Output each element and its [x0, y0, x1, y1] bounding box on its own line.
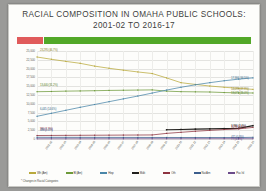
- series-marker: [94, 138, 95, 139]
- x-axis-tick-label: 2012-13: [203, 140, 212, 150]
- data-point-label: 480 (1.0%): [40, 128, 53, 132]
- legend-item-label: Multi: [140, 171, 145, 175]
- legend-item[interactable]: Oth: [163, 171, 175, 175]
- plot-area: 2001-022002-032003-042004-052005-062006-…: [37, 51, 253, 139]
- y-axis-tick-label: 0: [33, 137, 35, 141]
- x-axis-tick-label: 2007-08: [131, 140, 140, 150]
- legend-swatch-icon: [29, 172, 36, 174]
- y-axis-tick-label: 17,500: [26, 75, 35, 79]
- series-line: [37, 57, 253, 89]
- data-point-label: 13,440 (31.2%): [40, 83, 58, 87]
- series-marker: [80, 107, 81, 108]
- legend-item[interactable]: Nat Am: [194, 171, 211, 175]
- series-marker: [180, 138, 181, 139]
- series-marker: [180, 87, 181, 88]
- series-marker: [80, 137, 81, 138]
- banner-accent-red: [17, 37, 43, 44]
- series-marker: [195, 91, 196, 92]
- series-marker: [152, 137, 153, 138]
- legend-swatch-icon: [66, 172, 73, 174]
- series-marker: [123, 98, 124, 99]
- legend-item[interactable]: Bl (Am): [66, 171, 83, 175]
- series-marker: [108, 68, 109, 69]
- series-marker: [224, 129, 225, 130]
- legend-item[interactable]: Multi: [132, 171, 145, 175]
- series-marker: [51, 135, 52, 136]
- data-point-label: 77 (0.1%): [231, 137, 242, 141]
- series-marker: [252, 125, 254, 127]
- legend-item-label: Nat Am: [202, 171, 211, 175]
- legend-item[interactable]: Hisp: [100, 171, 113, 175]
- series-marker: [252, 92, 253, 93]
- series-marker: [137, 95, 138, 96]
- series-marker: [166, 91, 167, 92]
- x-axis-tick-label: 2013-14: [217, 140, 226, 150]
- series-marker: [51, 138, 52, 139]
- series-marker: [80, 135, 81, 136]
- series-marker: [51, 113, 52, 114]
- legend-swatch-icon: [228, 172, 235, 174]
- page-title: RACIAL COMPOSITION IN OMAHA PUBLIC SCHOO…: [9, 10, 259, 31]
- legend-item[interactable]: Pac Isl: [228, 171, 244, 175]
- x-axis-tick-label: 2002-03: [59, 140, 68, 150]
- x-axis-tick-label: 2006-07: [116, 140, 125, 150]
- legend-item[interactable]: Wh (Am): [29, 171, 47, 175]
- series-marker: [180, 132, 181, 133]
- series-marker: [65, 138, 66, 139]
- series-marker: [166, 129, 168, 131]
- x-axis-tick-label: 2004-05: [87, 140, 96, 150]
- x-axis-tick-label: 2009-10: [159, 140, 168, 150]
- series-marker: [36, 135, 37, 136]
- y-axis-tick-label: 5,000: [28, 119, 35, 123]
- series-marker: [252, 138, 253, 139]
- series-marker: [180, 82, 181, 83]
- legend-swatch-icon: [132, 172, 139, 174]
- series-marker: [252, 127, 253, 128]
- series-marker: [36, 91, 37, 92]
- series-marker: [224, 138, 225, 139]
- series-marker: [65, 61, 66, 62]
- series-marker: [108, 90, 109, 91]
- series-marker: [123, 135, 124, 136]
- grid-line: [37, 139, 253, 140]
- series-marker: [152, 138, 153, 139]
- series-marker: [195, 128, 197, 130]
- series-marker: [224, 80, 225, 81]
- series-marker: [224, 92, 225, 93]
- series-marker: [36, 56, 37, 57]
- series-marker: [51, 91, 52, 92]
- legend-item-label: Wh (Am): [37, 171, 47, 175]
- x-axis-tick-label: 2008-09: [145, 140, 154, 150]
- series-marker: [166, 137, 167, 138]
- series-marker: [65, 137, 66, 138]
- series-marker: [137, 134, 138, 135]
- x-axis-tick-label: 2014-15: [231, 140, 240, 150]
- series-marker: [123, 90, 124, 91]
- y-axis-tick-label: 10,000: [26, 102, 35, 106]
- y-axis-tick-label: 20,000: [26, 67, 35, 71]
- series-marker: [224, 137, 225, 138]
- series-marker: [65, 91, 66, 92]
- series-marker: [209, 91, 210, 92]
- legend-item-label: Oth: [171, 171, 175, 175]
- series-line: [37, 78, 253, 116]
- series-marker: [108, 135, 109, 136]
- series-marker: [36, 138, 37, 139]
- data-point-label: 6,445 (14.6%): [40, 107, 56, 111]
- series-marker: [209, 138, 210, 139]
- y-axis-tick-label: 2,500: [28, 128, 35, 132]
- x-axis-tick-label: 2005-06: [102, 140, 111, 150]
- legend-item-label: Pac Isl: [236, 171, 244, 175]
- series-marker: [94, 137, 95, 138]
- screenshot-frame: RACIAL COMPOSITION IN OMAHA PUBLIC SCHOO…: [0, 0, 266, 191]
- series-marker: [65, 135, 66, 136]
- series-marker: [123, 137, 124, 138]
- series-marker: [80, 90, 81, 91]
- data-point-label: 17,366 (34.5%): [231, 76, 249, 80]
- series-marker: [252, 77, 253, 78]
- legend-swatch-icon: [194, 172, 201, 174]
- legend-swatch-icon: [163, 172, 170, 174]
- series-lines: [37, 51, 253, 139]
- series-marker: [137, 137, 138, 138]
- series-marker: [152, 89, 153, 90]
